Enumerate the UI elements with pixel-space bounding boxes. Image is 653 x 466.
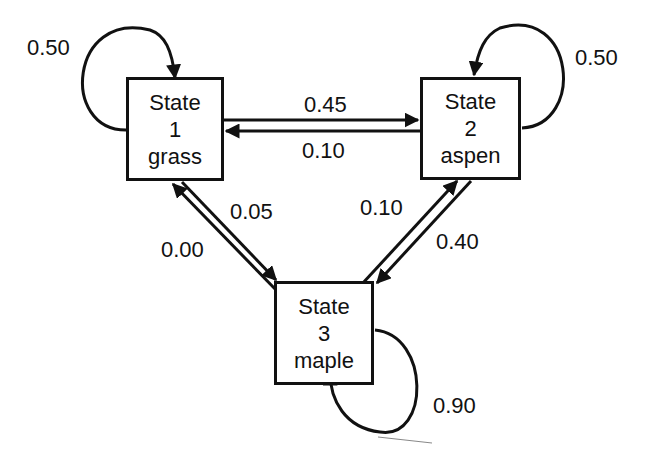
prob-1-to-1: 0.50: [27, 36, 70, 60]
prob-3-to-3: 0.90: [433, 394, 476, 418]
stray-mark: [378, 437, 432, 443]
prob-1-to-3: 0.05: [230, 200, 273, 224]
state-1-title: State: [149, 89, 200, 116]
state-3-name: maple: [294, 347, 354, 374]
edge-1-to-3-arrow: [182, 182, 276, 280]
state-1-number: 1: [169, 116, 181, 143]
state-2-name: aspen: [441, 142, 501, 169]
state-3-number: 3: [318, 320, 330, 347]
prob-2-to-2: 0.50: [575, 46, 618, 70]
state-1-name: grass: [148, 143, 202, 170]
state-1-node: State 1 grass: [126, 77, 224, 181]
prob-3-to-1: 0.00: [161, 238, 204, 262]
prob-2-to-3: 0.40: [436, 230, 479, 254]
diagram-edges: [0, 0, 653, 466]
state-3-title: State: [298, 293, 349, 320]
prob-1-to-2: 0.45: [304, 93, 347, 117]
state-3-node: State 3 maple: [274, 281, 374, 385]
state-2-title: State: [445, 88, 496, 115]
state-diagram: State 1 grass State 2 aspen State 3 mapl…: [0, 0, 653, 466]
prob-3-to-2: 0.10: [360, 196, 403, 220]
state-2-node: State 2 aspen: [420, 77, 521, 180]
state-2-number: 2: [464, 115, 476, 142]
prob-2-to-1: 0.10: [302, 139, 345, 163]
